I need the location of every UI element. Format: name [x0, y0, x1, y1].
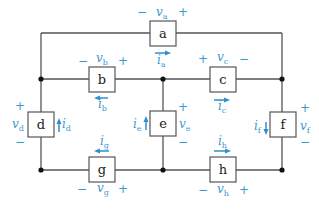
node-right-bottom — [279, 167, 284, 172]
vd-plus: + — [15, 99, 25, 113]
ve-label: ve — [179, 117, 191, 133]
node-left-bottom — [38, 167, 43, 172]
ve-minus: − — [178, 135, 188, 149]
element-g: g — [89, 157, 115, 182]
if-arrowhead-icon — [264, 129, 269, 135]
vc-label: vc — [217, 50, 229, 66]
vf-label: vf — [300, 119, 311, 135]
vf-minus: − — [300, 135, 310, 149]
va-label: va — [156, 5, 168, 21]
node-center-middle — [160, 76, 165, 81]
vb-plus: + — [118, 54, 128, 68]
vc-plus: + — [198, 52, 208, 66]
element-e: e — [150, 111, 176, 136]
node-right-middle — [279, 76, 284, 81]
element-b-label: b — [98, 72, 106, 87]
ic-arrowhead-icon — [224, 98, 230, 103]
ib-label: ib — [98, 97, 107, 113]
vh-label: vh — [217, 182, 229, 198]
vh-minus: − — [198, 183, 208, 197]
ih-arrowhead-icon — [225, 149, 231, 154]
element-d: d — [28, 112, 54, 137]
vd-minus: − — [15, 135, 25, 149]
id-label: id — [62, 117, 71, 133]
vg-plus: + — [118, 182, 128, 196]
element-e-label: e — [159, 116, 167, 131]
ig-label: ig — [100, 134, 109, 150]
id-arrowhead-icon — [57, 118, 62, 124]
element-c-label: c — [219, 72, 226, 87]
vd-label: vd — [12, 117, 24, 133]
if-label: if — [254, 119, 262, 135]
element-h: h — [210, 157, 236, 182]
node-center-bottom — [160, 167, 165, 172]
element-a: a — [150, 21, 176, 46]
va-minus: − — [137, 5, 147, 19]
ig-arrowhead-icon — [94, 149, 100, 154]
ve-plus: + — [178, 100, 188, 114]
node-left-middle — [38, 76, 43, 81]
vh-plus: + — [239, 183, 249, 197]
ia-arrowhead-icon — [165, 51, 171, 56]
element-h-label: h — [219, 162, 228, 177]
element-d-label: d — [37, 117, 45, 132]
element-a-label: a — [159, 26, 167, 41]
ie-arrowhead-icon — [144, 116, 149, 122]
element-g-label: g — [98, 162, 106, 177]
vf-plus: + — [300, 101, 310, 115]
element-c: c — [210, 67, 236, 92]
va-plus: + — [178, 5, 188, 19]
circuit-diagram: a b c d e f g h − va + ia − — [0, 0, 319, 214]
vc-minus: − — [239, 52, 249, 66]
vb-label: vb — [96, 51, 108, 67]
ie-label: ie — [133, 117, 142, 133]
vg-label: vg — [97, 181, 109, 197]
vb-minus: − — [78, 54, 88, 68]
ih-label: ih — [218, 134, 227, 150]
element-f: f — [270, 112, 296, 137]
element-b: b — [89, 67, 115, 92]
vg-minus: − — [77, 182, 87, 196]
ia-label: ia — [157, 53, 166, 69]
